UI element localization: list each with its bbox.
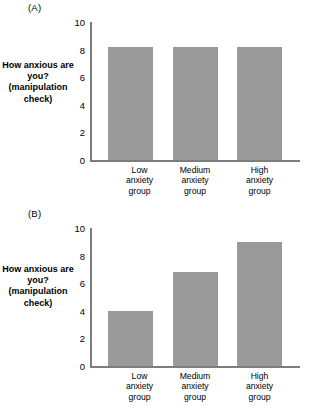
panel-a-y-axis-line	[90, 22, 92, 160]
panel-b-y-axis-title: How anxious are you? (manipulation check…	[0, 264, 76, 309]
panel-b-ytick-2: 2	[80, 333, 85, 344]
panel-b-ytick-10: 10	[74, 223, 85, 234]
panel-b-category-high: High anxiety group	[210, 371, 309, 402]
bar-high	[237, 242, 282, 366]
panel-a: (A) How anxious are you? (manipulation c…	[0, 0, 313, 206]
panel-b-label: (B)	[28, 208, 41, 219]
panel-b-x-axis-line	[90, 366, 300, 368]
bar-medium	[173, 47, 218, 160]
bar-high	[237, 47, 282, 160]
panel-a-ytick-6: 6	[80, 72, 85, 83]
panel-a-category-high: High anxiety group	[210, 165, 309, 196]
panel-b-ytick-8: 8	[80, 250, 85, 261]
panel-a-ytick-4: 4	[80, 99, 85, 110]
panel-b: (B) How anxious are you? (manipulation c…	[0, 206, 313, 412]
panel-a-ytick-10: 10	[74, 17, 85, 28]
bar-medium	[173, 272, 218, 366]
panel-a-x-axis-line	[90, 160, 300, 162]
panel-b-ytick-4: 4	[80, 305, 85, 316]
panel-b-plot-area: 10 8 6 4 2 0 Low anxiety group Medium an…	[90, 228, 300, 366]
panel-b-ytick-0: 0	[80, 361, 85, 372]
panel-b-ytick-6: 6	[80, 278, 85, 289]
bar-low	[108, 47, 153, 160]
panel-a-ytick-0: 0	[80, 155, 85, 166]
panel-a-label: (A)	[28, 2, 41, 13]
figure: (A) How anxious are you? (manipulation c…	[0, 0, 313, 417]
panel-a-plot-area: 10 8 6 4 2 0 Low anxiety group Medium an…	[90, 22, 300, 160]
panel-b-y-axis-line	[90, 228, 92, 366]
panel-a-y-axis-title: How anxious are you? (manipulation check…	[0, 60, 76, 105]
bar-low	[108, 311, 153, 366]
panel-a-ytick-2: 2	[80, 127, 85, 138]
panel-a-ytick-8: 8	[80, 44, 85, 55]
